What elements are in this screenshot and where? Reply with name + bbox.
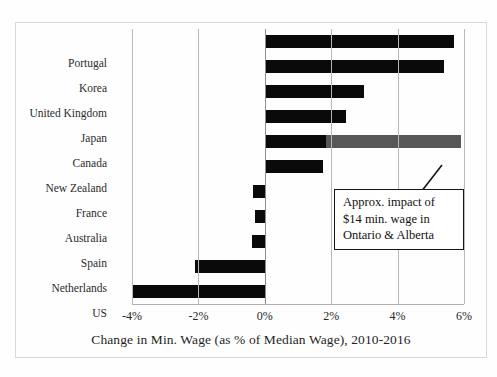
bar (265, 85, 365, 98)
callout-line-1: Approx. impact of (343, 194, 456, 211)
category-label: Korea (16, 76, 116, 101)
chart-frame: PortugalKoreaUnited KingdomJapanCanadaNe… (15, 22, 487, 358)
bar-row (132, 129, 464, 154)
bar (195, 260, 265, 273)
category-label: Spain (16, 251, 116, 276)
callout-line-3: Ontario & Alberta (343, 227, 456, 244)
x-tick-label: 0% (257, 309, 273, 324)
bar-row (132, 279, 464, 304)
bar-extension-canada (326, 135, 460, 148)
callout-line-2: $14 min. wage in (343, 211, 456, 228)
category-axis-labels: PortugalKoreaUnited KingdomJapanCanadaNe… (16, 51, 116, 326)
zero-axis-line (265, 29, 266, 304)
x-axis-title: Change in Min. Wage (as % of Median Wage… (16, 332, 486, 348)
gridline--4% (132, 29, 133, 304)
bar-row (132, 254, 464, 279)
gridline-2% (331, 29, 332, 304)
x-tick-label: -2% (188, 309, 208, 324)
x-tick-label: 2% (323, 309, 339, 324)
category-label: Canada (16, 151, 116, 176)
category-label: Australia (16, 226, 116, 251)
gridline-6% (464, 29, 465, 304)
bar-row (132, 104, 464, 129)
bar (253, 185, 265, 198)
x-axis-ticks: -4%-2%0%2%4%6% (132, 309, 464, 327)
bar (265, 110, 346, 123)
gridline--2% (198, 29, 199, 304)
bar (265, 160, 323, 173)
bar-row (132, 29, 464, 54)
gridline-4% (398, 29, 399, 304)
callout-box: Approx. impact of $14 min. wage in Ontar… (334, 189, 464, 250)
category-label: United Kingdom (16, 101, 116, 126)
bar (255, 210, 265, 223)
bar (265, 135, 326, 148)
bar-row (132, 79, 464, 104)
bar (265, 60, 444, 73)
x-axis-baseline (132, 304, 464, 305)
category-label: New Zealand (16, 176, 116, 201)
category-label: Netherlands (16, 276, 116, 301)
category-label: Portugal (16, 51, 116, 76)
x-tick-label: -4% (122, 309, 142, 324)
x-tick-label: 6% (456, 309, 472, 324)
bar (252, 235, 265, 248)
category-label: France (16, 201, 116, 226)
cropped-caption-sliver (28, 0, 328, 7)
category-label: Japan (16, 126, 116, 151)
bar-row (132, 54, 464, 79)
x-tick-label: 4% (390, 309, 406, 324)
chart-screenshot: PortugalKoreaUnited KingdomJapanCanadaNe… (0, 0, 497, 377)
category-label: US (16, 301, 116, 326)
bar (265, 35, 454, 48)
